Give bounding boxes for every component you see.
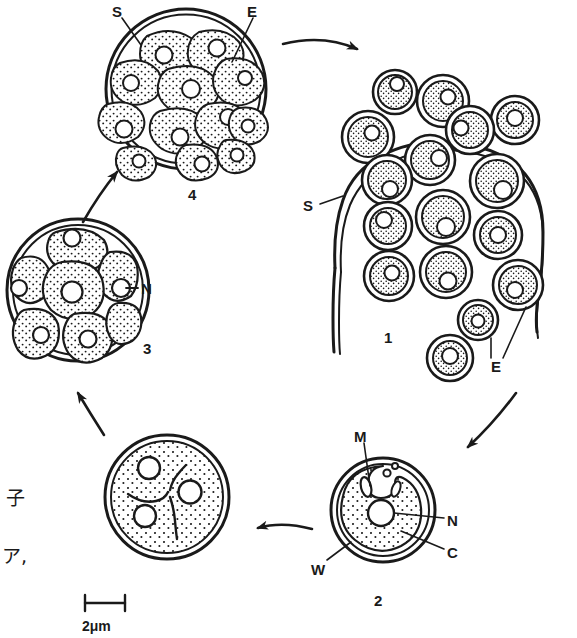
- stage-3-divided-cell: [7, 219, 149, 363]
- diagram-canvas: [0, 0, 577, 638]
- figure-endospore-life-cycle: S E S E M N C W N 1 2 3 4 子 ア, 2μm: [0, 0, 577, 638]
- stage-2-single-cell: [327, 443, 444, 562]
- leader-W-stage2: [327, 542, 351, 560]
- stage-number-1: 1: [384, 330, 392, 345]
- label-S-stage4: S: [112, 4, 122, 19]
- stage-2-nucleus: [368, 500, 394, 526]
- label-E-stage4: E: [247, 4, 257, 19]
- arrow-2-to-cleavage: [258, 525, 312, 529]
- stage-number-4: 4: [188, 187, 196, 202]
- stage-4-sporangium: [98, 9, 268, 181]
- arrow-4-to-1: [283, 40, 357, 49]
- stage-number-2: 2: [374, 593, 382, 608]
- scale-bar-label: 2μm: [82, 618, 111, 634]
- leader-S-stage1: [320, 196, 343, 204]
- margin-text-2: ア,: [2, 547, 27, 566]
- label-W-stage2: W: [311, 562, 325, 577]
- margin-text-1: 子: [6, 489, 25, 508]
- scale-bar: [85, 595, 125, 611]
- arrow-1-to-2: [468, 393, 516, 447]
- label-C-stage2: C: [447, 545, 458, 560]
- label-N-stage3: N: [141, 281, 152, 296]
- stage-cleavage-cell: [105, 435, 229, 559]
- stage-1-released-endospores: [320, 70, 543, 381]
- label-S-stage1: S: [303, 198, 313, 213]
- stage-number-3: 3: [143, 341, 151, 356]
- arrow-3-to-4: [83, 172, 117, 222]
- label-N-stage2: N: [447, 513, 458, 528]
- label-E-stage1: E: [491, 359, 501, 374]
- leader-E-stage1-b: [503, 307, 526, 358]
- arrow-cleavage-to-3: [78, 393, 104, 435]
- label-M-stage2: M: [354, 429, 367, 444]
